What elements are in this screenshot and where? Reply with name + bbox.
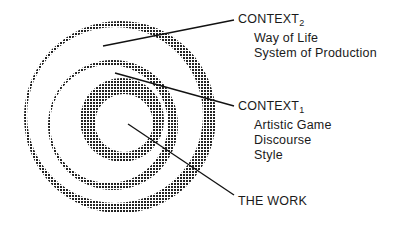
inner-ring-work [80, 78, 164, 162]
context2-label: CONTEXT2 Way of Life System of Productio… [238, 12, 377, 61]
the-work-label: THE WORK [238, 194, 307, 209]
context2-item-way-of-life: Way of Life [238, 31, 377, 46]
context2-title: CONTEXT2 [238, 12, 377, 31]
context1-item-style: Style [238, 148, 332, 163]
context1-item-discourse: Discourse [238, 133, 332, 148]
context2-item-system-of-production: System of Production [238, 46, 377, 61]
context1-label: CONTEXT1 Artistic Game Discourse Style [238, 99, 332, 163]
the-work-title: THE WORK [238, 194, 307, 209]
context1-item-artistic-game: Artistic Game [238, 118, 332, 133]
context1-title: CONTEXT1 [238, 99, 332, 118]
